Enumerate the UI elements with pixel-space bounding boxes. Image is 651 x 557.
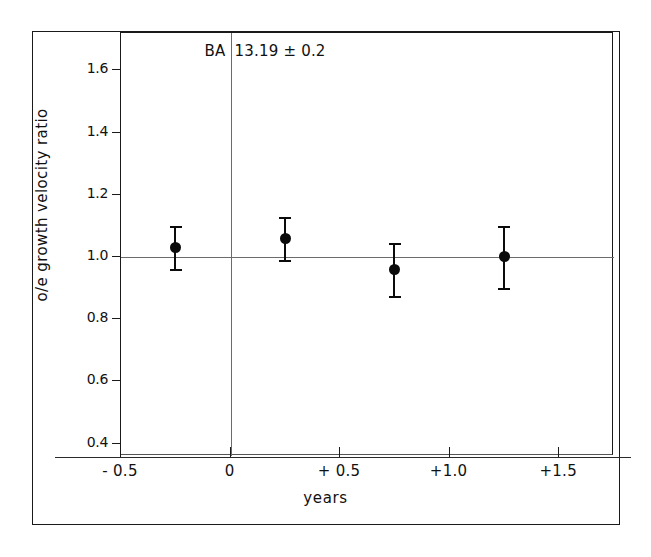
y-tick-mark [112, 443, 121, 444]
y-tick-mark [112, 256, 121, 257]
x-axis-title: years [0, 489, 651, 507]
error-bar-cap-upper [498, 226, 510, 228]
y-tick-mark [112, 194, 121, 195]
error-bar-cap-upper [279, 217, 291, 219]
data-point-marker [389, 264, 400, 275]
data-point-marker [280, 233, 291, 244]
x-axis-line [55, 457, 631, 458]
data-point [166, 226, 186, 270]
data-point [494, 226, 514, 288]
error-bar-cap-lower [279, 260, 291, 262]
y-axis-title: o/e growth velocity ratio [33, 100, 51, 310]
error-bar-cap-upper [389, 243, 401, 245]
error-bar-cap-upper [170, 226, 182, 228]
bone-age-label: BA [205, 42, 226, 60]
bone-age-value: 13.19 ± 0.2 [235, 42, 326, 60]
x-tick-label: +1.5 [523, 462, 593, 480]
data-point-marker [170, 242, 181, 253]
x-tick-label: + 0.5 [304, 462, 374, 480]
y-tick-label: 1.6 [68, 60, 108, 76]
y-tick-label: 1.0 [68, 247, 108, 263]
y-tick-label: 0.6 [68, 371, 108, 387]
error-bar-cap-lower [170, 269, 182, 271]
data-point-marker [499, 251, 510, 262]
y-tick-label: 1.4 [68, 123, 108, 139]
y-tick-mark [112, 318, 121, 319]
error-bar-cap-lower [389, 296, 401, 298]
error-bar-cap-lower [498, 288, 510, 290]
x-tick-label: 0 [195, 462, 265, 480]
data-point [275, 217, 295, 261]
y-tick-mark [112, 380, 121, 381]
plot-area [120, 32, 613, 455]
y-tick-label: 0.4 [68, 434, 108, 450]
y-tick-label: 1.2 [68, 185, 108, 201]
y-tick-mark [112, 132, 121, 133]
data-point [385, 243, 405, 296]
bone-age-annotation: BA13.19 ± 0.2 [205, 42, 326, 60]
y-tick-label: 0.8 [68, 309, 108, 325]
bone-age-marker-line [231, 33, 232, 456]
unity-reference-line [121, 257, 614, 258]
y-tick-mark [112, 69, 121, 70]
x-tick-label: - 0.5 [85, 462, 155, 480]
figure-panel: BA13.19 ± 0.2 1.61.41.21.00.80.60.4 - 0.… [0, 0, 651, 557]
x-tick-label: +1.0 [414, 462, 484, 480]
